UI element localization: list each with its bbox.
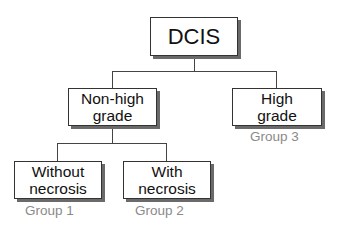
node-label-line2: necrosis <box>29 180 87 197</box>
connector-nonhigh-horizontal <box>57 143 167 144</box>
node-label-line2: grade <box>257 107 297 124</box>
connector-to-with-necrosis <box>166 143 167 161</box>
node-label-line2: necrosis <box>138 180 196 197</box>
node-non-high-grade: Non-high grade <box>68 88 157 126</box>
group-1-label: Group 1 <box>25 203 74 218</box>
node-label-line1: Without <box>32 163 85 180</box>
node-with-necrosis: With necrosis <box>123 161 211 199</box>
node-label-line1: With <box>152 163 183 180</box>
connector-to-non-high-grade <box>112 71 113 88</box>
connector-root-horizontal <box>112 71 277 72</box>
connector-nonhigh-down <box>112 125 113 144</box>
node-without-necrosis: Without necrosis <box>14 161 102 199</box>
node-dcis-label: DCIS <box>168 25 221 49</box>
connector-to-without-necrosis <box>57 143 58 161</box>
node-dcis: DCIS <box>150 17 238 56</box>
group-2-label: Group 2 <box>135 203 184 218</box>
connector-to-high-grade <box>276 71 277 88</box>
connector-root-down <box>194 55 195 72</box>
group-3-label: Group 3 <box>250 129 299 144</box>
node-label-line1: High <box>261 90 293 107</box>
node-label-line2: grade <box>93 107 133 124</box>
node-label-line1: Non-high <box>81 90 144 107</box>
node-high-grade: High grade <box>232 88 322 126</box>
